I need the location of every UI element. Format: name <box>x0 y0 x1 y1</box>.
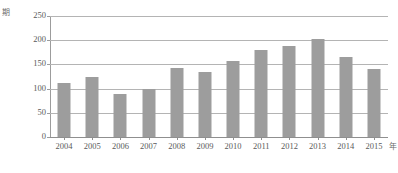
x-axis-tick-label: 2008 <box>168 141 185 152</box>
x-axis-tick-label: 2011 <box>253 141 270 152</box>
bar-slot <box>360 16 388 137</box>
x-axis-tick-label: 2007 <box>140 141 157 152</box>
y-axis-tick-label: 200 <box>20 35 46 44</box>
bar <box>142 89 155 137</box>
x-axis-tick-mark <box>346 137 347 140</box>
y-axis-tick-mark <box>47 137 50 138</box>
x-axis-tick-labels: 年 20042005200620072008200920102011201220… <box>50 141 388 155</box>
bar <box>86 77 99 138</box>
bar-chart-figure: 期 050100150200250 年 20042005200620072008… <box>0 0 398 173</box>
y-axis-tick-label: 0 <box>20 132 46 141</box>
bar-slot <box>191 16 219 137</box>
x-axis-tick-mark <box>177 137 178 140</box>
x-axis-tick-mark <box>261 137 262 140</box>
gridline <box>50 137 388 138</box>
bar-slot <box>332 16 360 137</box>
bar-series <box>50 16 388 137</box>
y-axis-tick-label: 150 <box>20 59 46 68</box>
x-axis-tick-label: 2010 <box>225 141 242 152</box>
x-axis-tick-mark <box>205 137 206 140</box>
bar <box>227 61 240 137</box>
bar-slot <box>219 16 247 137</box>
bar-slot <box>304 16 332 137</box>
bar <box>170 68 183 137</box>
bar <box>58 83 71 137</box>
y-axis-tick-labels: 050100150200250 <box>18 16 46 137</box>
y-axis-tick-label: 50 <box>20 108 46 117</box>
bar-slot <box>247 16 275 137</box>
x-axis-tick-label: 2013 <box>309 141 326 152</box>
x-axis-tick-mark <box>149 137 150 140</box>
x-axis-tick-label: 2004 <box>56 141 73 152</box>
x-axis-unit-label: 年 <box>389 141 397 152</box>
bar <box>283 46 296 137</box>
y-axis-tick-label: 250 <box>20 11 46 20</box>
y-axis-unit-label: 期 <box>2 8 10 18</box>
x-axis-tick-mark <box>374 137 375 140</box>
bar <box>198 72 211 137</box>
bar-slot <box>135 16 163 137</box>
x-axis-tick-mark <box>233 137 234 140</box>
x-axis-tick-mark <box>289 137 290 140</box>
y-axis-tick-label: 100 <box>20 84 46 93</box>
x-axis-tick-mark <box>92 137 93 140</box>
x-axis-tick-mark <box>64 137 65 140</box>
x-axis-tick-mark <box>318 137 319 140</box>
bar-slot <box>163 16 191 137</box>
x-axis-tick-label: 2014 <box>337 141 354 152</box>
x-axis-tick-label: 2009 <box>196 141 213 152</box>
bar <box>311 39 324 137</box>
bar-slot <box>275 16 303 137</box>
x-axis-tick-mark <box>120 137 121 140</box>
x-axis-tick-label: 2005 <box>84 141 101 152</box>
bar <box>339 57 352 137</box>
bar-slot <box>78 16 106 137</box>
bar <box>114 94 127 137</box>
bar-slot <box>106 16 134 137</box>
x-axis-tick-label: 2006 <box>112 141 129 152</box>
bar <box>367 69 380 137</box>
bar-slot <box>50 16 78 137</box>
plot-area <box>50 16 388 137</box>
bar <box>255 50 268 137</box>
x-axis-tick-label: 2012 <box>281 141 298 152</box>
x-axis-tick-label: 2015 <box>365 141 382 152</box>
